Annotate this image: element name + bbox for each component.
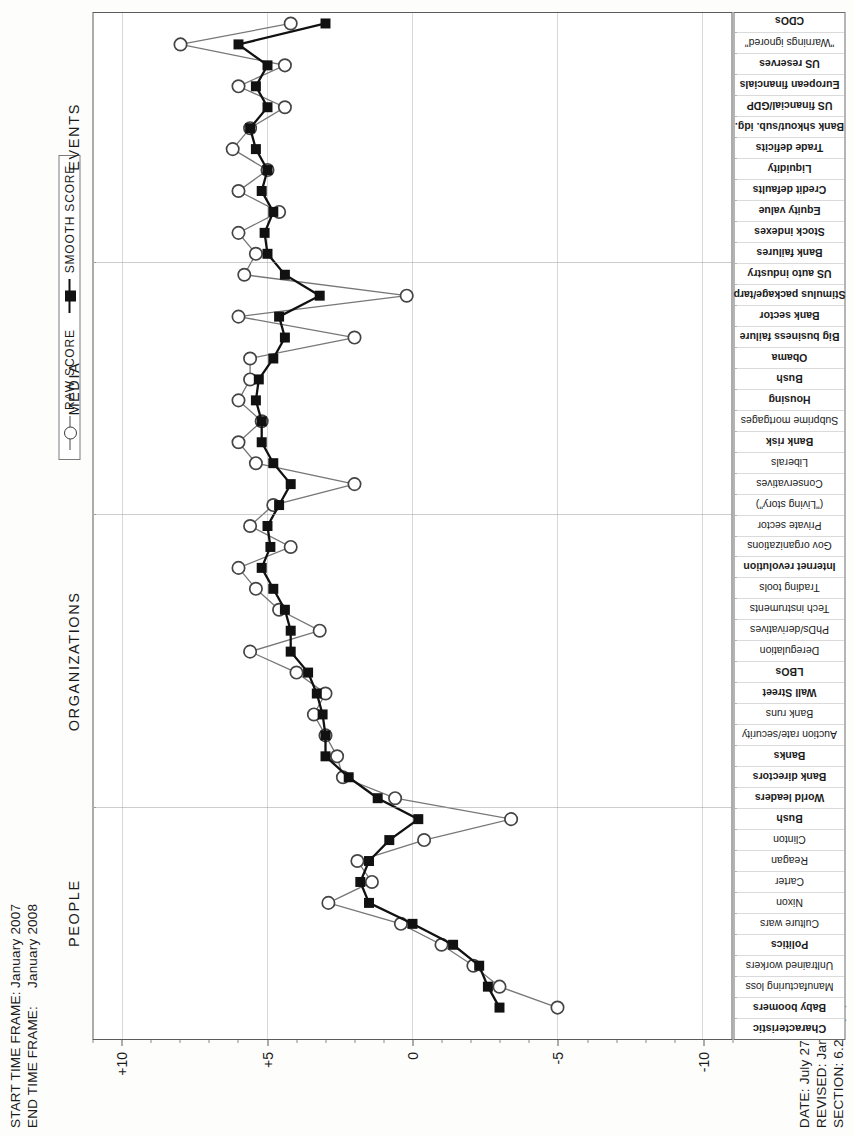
data-point-open-circle <box>232 394 244 406</box>
raw-score-line-sample <box>69 416 70 450</box>
category-cell: Bush <box>734 808 844 829</box>
category-cell: Reagan <box>734 850 844 871</box>
start-time-frame-label: START TIME FRAME: <box>6 988 23 1128</box>
data-point-open-circle <box>243 520 255 532</box>
y-axis-tick-label: 0 <box>404 1052 420 1060</box>
plot-inner <box>93 13 731 1039</box>
data-point-filled-square <box>268 584 278 594</box>
category-cell: LBOs <box>734 661 844 682</box>
data-point-open-circle <box>232 80 244 92</box>
category-label: Unltrained workers <box>745 960 833 972</box>
category-label: Manufacturing loss <box>745 981 833 993</box>
data-point-open-circle <box>313 625 325 637</box>
section-label-organizations: ORGANIZATIONS <box>65 591 81 731</box>
data-point-filled-square <box>265 542 275 552</box>
category-label: Reagan <box>771 855 808 867</box>
category-label: Culture wars <box>760 918 819 930</box>
data-point-open-circle <box>551 1001 563 1013</box>
data-point-filled-square <box>262 165 272 175</box>
category-cell: Nixon <box>734 892 844 913</box>
data-point-open-circle <box>348 331 360 343</box>
category-label: LBOs <box>775 666 803 678</box>
category-cell: ("Living story") <box>734 494 844 515</box>
data-point-filled-square <box>317 709 327 719</box>
data-point-filled-square <box>262 521 272 531</box>
data-point-open-circle <box>232 562 244 574</box>
category-cell: US reserves <box>734 53 844 74</box>
category-label: PhDs/derivatives <box>750 624 829 636</box>
category-cell: Deregulation <box>734 640 844 661</box>
data-point-filled-square <box>262 60 272 70</box>
category-label: Bank directors <box>752 771 826 783</box>
data-point-filled-square <box>384 835 394 845</box>
category-label: European financials <box>739 79 839 91</box>
category-cell: Private sector <box>734 515 844 536</box>
category-cell: World leaders <box>734 787 844 808</box>
category-cell: Bank shkout/sub. idg. <box>734 116 844 137</box>
category-cell: Auction rate/security <box>734 724 844 745</box>
category-label: Deregulation <box>759 645 819 657</box>
category-label: Liquidity <box>767 163 811 175</box>
category-cell: Liquidity <box>734 158 844 179</box>
data-point-filled-square <box>245 123 255 133</box>
data-point-open-circle <box>232 310 244 322</box>
category-cell: Unltrained workers <box>734 955 844 976</box>
category-axis-table: CharacteristicBaby boomersManufacturing … <box>733 12 845 1040</box>
data-point-open-circle <box>365 876 377 888</box>
data-point-filled-square <box>448 940 458 950</box>
section-divider <box>93 262 731 263</box>
data-point-filled-square <box>279 605 289 615</box>
category-label: Clinton <box>773 834 806 846</box>
category-cell: Bank failures <box>734 242 844 263</box>
category-cell: Baby boomers <box>734 997 844 1018</box>
category-label: Wall Street <box>762 687 816 699</box>
data-point-open-circle <box>249 457 261 469</box>
category-cell: Housing <box>734 389 844 410</box>
category-cell: Trade deficits <box>734 137 844 158</box>
category-label: Carter <box>774 876 803 888</box>
end-time-frame-label: END TIME FRAME: <box>23 988 40 1128</box>
chart-sheet: START TIME FRAME:January 2007 END TIME F… <box>0 0 853 1136</box>
data-point-open-circle <box>232 227 244 239</box>
data-point-filled-square <box>320 751 330 761</box>
data-point-filled-square <box>314 291 324 301</box>
data-point-filled-square <box>259 228 269 238</box>
category-cell: Banks <box>734 745 844 766</box>
data-point-filled-square <box>279 270 289 280</box>
open-circle-marker-icon <box>63 427 76 440</box>
category-label: Subprime mortgages <box>740 415 837 427</box>
category-label: US auto industry <box>747 268 831 280</box>
data-point-open-circle <box>284 541 296 553</box>
category-cell: Manufacturing loss <box>734 976 844 997</box>
category-header-cell: Characteristic <box>734 1018 844 1039</box>
data-point-filled-square <box>474 961 484 971</box>
data-point-open-circle <box>278 101 290 113</box>
category-cell: Credit defaults <box>734 179 844 200</box>
category-label: "Warnings ignored" <box>744 37 833 49</box>
data-point-open-circle <box>493 980 505 992</box>
data-point-open-circle <box>388 792 400 804</box>
y-axis-tick-label: +5 <box>259 1052 275 1068</box>
data-point-open-circle <box>322 897 334 909</box>
category-cell: Politics <box>734 934 844 955</box>
category-label: CDOs <box>774 16 803 28</box>
category-cell: Bush <box>734 368 844 389</box>
data-point-open-circle <box>284 17 296 29</box>
category-cell: CDOs <box>734 11 844 32</box>
section-label-media: MEDIA <box>65 362 81 416</box>
start-time-frame-value: January 2007 <box>7 904 22 988</box>
data-point-filled-square <box>274 312 284 322</box>
category-label: Equity value <box>758 205 820 217</box>
data-point-open-circle <box>400 289 412 301</box>
data-point-open-circle <box>330 750 342 762</box>
category-label: Nixon <box>776 897 803 909</box>
category-cell: Trading tools <box>734 577 844 598</box>
category-label: Stimulus package/tarp <box>733 289 845 301</box>
data-point-filled-square <box>285 626 295 636</box>
section-divider <box>93 807 731 808</box>
section-label-people: PEOPLE <box>65 879 81 947</box>
category-cell: Bank risk <box>734 431 844 452</box>
data-point-open-circle <box>232 436 244 448</box>
category-label: Conservatives <box>756 478 823 490</box>
data-point-open-circle <box>238 269 250 281</box>
